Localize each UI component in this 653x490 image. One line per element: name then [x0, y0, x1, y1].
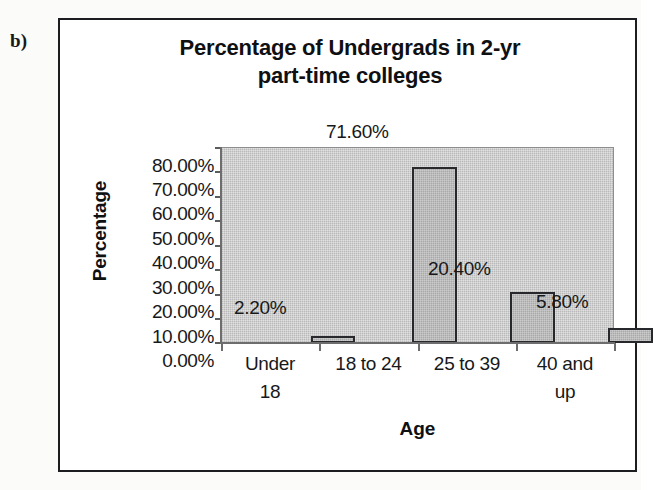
- y-tick-label-0: 0.00%: [114, 350, 214, 372]
- data-label-under-18: 2.20%: [234, 297, 286, 319]
- x-tick-label-18-to-24-line1: 18 to 24: [319, 350, 418, 378]
- y-tick-label-40: 40.00%: [114, 252, 214, 274]
- y-tick-label-80: 80.00%: [114, 155, 214, 177]
- x-tick-label-40-and-up: 40 and up: [516, 350, 614, 405]
- x-tick-label-25-to-39-line1: 25 to 39: [418, 350, 516, 378]
- data-label-40-and-up: 5.80%: [536, 291, 588, 313]
- x-tick-label-under-18-line2: 18: [221, 378, 319, 406]
- y-tick-label-70: 70.00%: [114, 179, 214, 201]
- y-axis-line: [220, 147, 222, 344]
- x-tick-label-under-18-line1: Under: [221, 350, 319, 378]
- y-tick-label-60: 60.00%: [114, 203, 214, 225]
- data-label-25-to-39: 20.40%: [428, 258, 491, 280]
- x-tick-label-under-18: Under 18: [221, 350, 319, 405]
- y-tick-label-10: 10.00%: [114, 326, 214, 348]
- x-tick-label-40-and-up-line1: 40 and: [516, 350, 614, 378]
- bar-40-and-up[interactable]: [608, 328, 653, 343]
- y-tick-label-20: 20.00%: [114, 301, 214, 323]
- x-tick-label-25-to-39: 25 to 39: [418, 350, 516, 378]
- y-axis-tick-labels: 80.00% 70.00% 60.00% 50.00% 40.00% 30.00…: [110, 20, 214, 474]
- x-tick-label-40-and-up-line2: up: [516, 378, 614, 406]
- x-tick-label-18-to-24: 18 to 24: [319, 350, 418, 378]
- y-axis-title: Percentage: [89, 151, 111, 311]
- data-label-18-to-24: 71.60%: [326, 121, 389, 143]
- x-tick-mark-4: [614, 343, 616, 351]
- y-tick-label-50: 50.00%: [114, 228, 214, 250]
- bar-18-to-24[interactable]: [412, 167, 457, 343]
- x-axis-title: Age: [221, 418, 614, 440]
- figure-label: b): [10, 30, 28, 52]
- y-tick-label-30: 30.00%: [114, 277, 214, 299]
- chart-frame: Percentage of Undergrads in 2-yr part-ti…: [58, 18, 637, 472]
